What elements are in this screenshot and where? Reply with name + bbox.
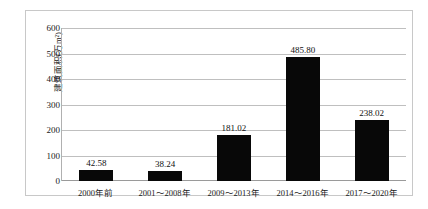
bar-value-label: 485.80 (268, 45, 337, 55)
bar-value-label: 181.02 (200, 123, 269, 133)
bar-rect[interactable] (286, 57, 320, 181)
bar-value-label: 38.24 (131, 159, 200, 169)
y-tick-label: 200 (32, 126, 60, 135)
bar-rect[interactable] (355, 120, 389, 181)
bar-slot: 38.24 (131, 28, 200, 181)
bar-slot: 181.02 (200, 28, 269, 181)
x-tick-label: 2001～2008年 (130, 185, 199, 201)
bar-slot: 42.58 (62, 28, 131, 181)
bar-rect[interactable] (148, 171, 182, 181)
y-tick-label: 0 (32, 177, 60, 186)
y-tick-label: 300 (32, 100, 60, 109)
y-axis-tick-labels: 600 500 400 300 200 100 0 (32, 28, 60, 188)
y-tick-label: 500 (32, 49, 60, 58)
bar-value-label: 42.58 (62, 158, 131, 168)
bar-series: 42.58 38.24 181.02 485.80 238.02 (62, 28, 406, 181)
bar-rect[interactable] (217, 135, 251, 181)
x-tick-label: 2014～2016年 (268, 185, 337, 201)
bar-rect[interactable] (79, 170, 113, 181)
x-tick-label: 2009～2013年 (199, 185, 268, 201)
x-tick-label: 2000年前 (61, 185, 130, 201)
y-tick-label: 400 (32, 75, 60, 84)
x-axis-tick-labels: 2000年前 2001～2008年 2009～2013年 2014～2016年 … (61, 185, 406, 201)
x-tick-label: 2017～2020年 (337, 185, 406, 201)
bar-slot: 485.80 (268, 28, 337, 181)
bar-value-label: 238.02 (337, 108, 406, 118)
y-tick-label: 600 (32, 24, 60, 33)
bar-slot: 238.02 (337, 28, 406, 181)
y-tick-label: 100 (32, 151, 60, 160)
plot-area: 42.58 38.24 181.02 485.80 238.02 (61, 28, 406, 181)
chart-frame: 建筑面积(万m²) 600 500 400 300 200 100 0 42.5… (25, 10, 413, 196)
